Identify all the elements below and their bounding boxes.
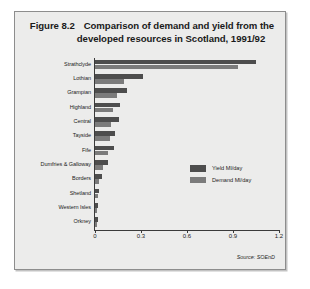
bar-demand: [95, 194, 98, 198]
bar-demand: [95, 93, 117, 97]
bar-yield: [95, 217, 98, 221]
source-note: Source: SOEnD: [237, 254, 275, 260]
bar-yield: [95, 189, 99, 193]
x-tick-label: 1.2: [275, 233, 283, 239]
figure-title: Figure 8.2Comparison of demand and yield…: [15, 19, 287, 45]
bar-group: Highland: [95, 102, 279, 116]
category-label: Highland: [70, 103, 91, 112]
category-label: Shetland: [70, 189, 91, 198]
figure-number: Figure 8.2: [30, 20, 75, 31]
bar-demand: [95, 79, 124, 83]
bar-group: Central: [95, 117, 279, 131]
legend-item: Demand Ml/day: [190, 177, 300, 184]
legend-label: Yield Ml/day: [212, 165, 242, 171]
bar-group: Western Isles: [95, 203, 279, 217]
bar-yield: [95, 88, 127, 92]
bar-yield: [95, 60, 256, 64]
bar-demand: [95, 151, 108, 155]
category-label: Central: [74, 117, 91, 126]
category-label: Western Isles: [58, 203, 91, 212]
x-tick-label: 0.3: [137, 233, 145, 239]
legend-swatch-yield: [190, 165, 206, 172]
bar-demand: [95, 136, 110, 140]
bar-group: Strathclyde: [95, 59, 279, 73]
legend-swatch-demand: [190, 177, 206, 184]
figure-title-line-1: Figure 8.2Comparison of demand and yield…: [15, 19, 287, 32]
figure-title-text-1: Comparison of demand and yield from the: [84, 20, 274, 31]
x-tick-label: 0.9: [229, 233, 237, 239]
bar-group: Shetland: [95, 188, 279, 202]
x-tick-label: 0: [93, 233, 96, 239]
bar-demand: [95, 65, 238, 69]
category-label: Borders: [72, 174, 91, 183]
legend-item: Yield Ml/day: [190, 165, 300, 172]
bar-yield: [95, 203, 98, 207]
category-label: Strathclyde: [64, 60, 91, 69]
legend-label: Demand Ml/day: [212, 177, 251, 183]
figure-title-line-2: developed resources in Scotland, 1991/92: [15, 32, 287, 45]
plot-area: StrathclydeLothianGrampianHighlandCentra…: [94, 58, 279, 231]
bar-demand: [95, 179, 99, 183]
x-tick-label: 0.6: [183, 233, 191, 239]
category-label: Grampian: [67, 88, 91, 97]
bar-yield: [95, 74, 143, 78]
chart-legend: Yield Ml/dayDemand Ml/day: [190, 165, 300, 188]
category-label: Lothian: [73, 74, 91, 83]
bar-yield: [95, 174, 102, 178]
bar-group: Lothian: [95, 74, 279, 88]
category-label: Dumfries & Galloway: [41, 160, 91, 169]
bar-group: Grampian: [95, 88, 279, 102]
bar-demand: [95, 165, 103, 169]
bar-yield: [95, 131, 115, 135]
category-label: Fife: [82, 146, 91, 155]
category-label: Tayside: [73, 131, 91, 140]
bar-demand: [95, 222, 97, 226]
category-label: Orkney: [74, 217, 91, 226]
bar-yield: [95, 146, 114, 150]
bar-demand: [95, 122, 111, 126]
bar-demand: [95, 208, 97, 212]
bar-yield: [95, 160, 108, 164]
bars-layer: StrathclydeLothianGrampianHighlandCentra…: [95, 58, 279, 230]
bar-yield: [95, 117, 119, 121]
bar-demand: [95, 108, 113, 112]
bar-group: Tayside: [95, 131, 279, 145]
bar-group: Fife: [95, 145, 279, 159]
bar-yield: [95, 103, 120, 107]
figure-panel: Figure 8.2Comparison of demand and yield…: [14, 11, 286, 270]
